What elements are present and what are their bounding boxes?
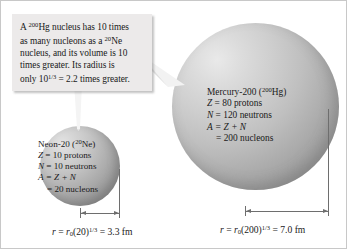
mercury-name-line: Mercury-200 (200Hg): [207, 84, 286, 98]
callout-line-5: only 101/3 = 2.2 times greater.: [20, 71, 146, 85]
neon-neutrons-line: N = 10 neutrons: [38, 161, 98, 172]
isotope-superscript: 200: [29, 21, 39, 28]
callout-line-1: A 200Hg nucleus has 10 times: [20, 19, 146, 33]
neon-name-line: Neon-20 (20Ne): [38, 136, 98, 150]
mercury-mass-line: A = Z + N: [207, 122, 286, 134]
isotope-superscript: 20: [75, 138, 82, 145]
neon-radius-caption: r = r0(20)1/3 = 3.3 fm: [52, 226, 133, 237]
exponent-superscript: 1/3: [89, 226, 97, 233]
callout-line-3: nucleus, and its volume is 10: [20, 47, 146, 59]
neon-mass-line: A = Z + N: [38, 172, 98, 183]
mercury-neutrons-line: N = 120 neutrons: [207, 110, 286, 122]
isotope-superscript: 200: [262, 86, 272, 93]
mercury-dimension-line: [245, 211, 329, 212]
mercury-radius-caption: r = r0(200)1/3 = 7.0 fm: [220, 224, 305, 235]
neon-arrow-left-icon: [81, 211, 86, 215]
nuclear-size-figure: A 200Hg nucleus has 10 times as many nuc…: [0, 0, 347, 249]
exponent-superscript: 1/3: [48, 73, 56, 80]
callout-line-4: times greater. Its radius is: [20, 59, 146, 71]
neon-protons-line: Z = 10 protons: [38, 150, 98, 161]
callout-line-2: as many nucleons as a 20Ne: [20, 33, 146, 47]
neon-arrow-right-icon: [114, 211, 119, 215]
mercury-arrow-right-icon: [323, 209, 328, 213]
mercury-extension-line-right: [328, 109, 329, 215]
mercury-protons-line: Z = 80 protons: [207, 98, 286, 110]
exponent-superscript: 1/3: [262, 224, 270, 231]
mercury-200-label: Mercury-200 (200Hg) Z = 80 protons N = 1…: [207, 84, 286, 145]
mercury-nucleons-line: = 200 nucleons: [207, 133, 286, 145]
neon-nucleons-line: = 20 nucleons: [38, 184, 98, 195]
neon-20-label: Neon-20 (20Ne) Z = 10 protons N = 10 neu…: [38, 136, 98, 195]
explanation-callout: A 200Hg nucleus has 10 times as many nuc…: [12, 14, 152, 91]
mercury-arrow-left-icon: [246, 209, 251, 213]
